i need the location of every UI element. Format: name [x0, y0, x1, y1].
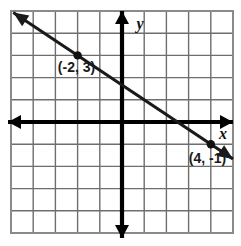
x-axis-label: x: [218, 125, 227, 142]
y-axis-label: y: [134, 15, 144, 33]
point-label-4-neg1: (4, -1): [189, 150, 226, 166]
point-marker-4-neg1: [207, 140, 215, 148]
coordinate-plane-figure: (-2, 3) (4, -1) y x: [0, 0, 241, 246]
graph-canvas: (-2, 3) (4, -1) y x: [0, 0, 241, 246]
point-label-neg2-3: (-2, 3): [58, 59, 95, 75]
